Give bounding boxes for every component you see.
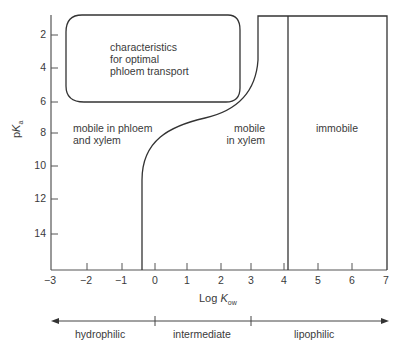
x-axis-ticks [87,263,352,270]
y-tick-label: 2 [22,28,46,40]
y-tick-label: 12 [22,192,46,204]
y-axis-title-italic: K [10,125,22,132]
x-tick-label: 5 [308,274,328,286]
xylem-label: mobile in xylem [225,122,265,146]
x-axis-title-main: Log [199,292,220,304]
arrow-right-icon [381,318,389,324]
y-axis-title-main: p [10,132,22,138]
xylem-line-1: mobile [225,122,265,134]
phloem-xylem-line-1: mobile in phloem [73,122,152,134]
phloem-xylem-line-2: and xylem [73,134,152,146]
x-tick-label: 2 [211,274,231,286]
xylem-line-2: in xylem [225,134,265,146]
y-tick-label: 6 [22,95,46,107]
x-tick-label: 0 [145,274,165,286]
x-tick-label: 4 [274,274,294,286]
optimal-line-1: characteristics [110,41,189,53]
immobile-label: immobile [316,122,358,134]
scale-label-hydrophilic: hydrophilic [75,328,125,340]
x-tick-label: 1 [177,274,197,286]
y-tick-label: 14 [22,227,46,239]
x-axis-title-sub: ow [228,299,237,306]
y-axis-ticks [51,35,58,234]
scale-label-intermediate: intermediate [173,328,231,340]
x-tick-label: −2 [76,274,96,286]
x-tick-label: 6 [342,274,362,286]
y-tick-label: 4 [22,61,46,73]
scale-label-lipophilic: lipophilic [294,328,334,340]
y-axis-title: pKa [10,121,27,138]
optimal-line-3: phloem transport [110,65,189,77]
optimal-phloem-label: characteristics for optimal phloem trans… [110,41,189,77]
x-axis-title-italic: K [220,292,227,304]
x-axis-title: Log Kow [199,292,237,309]
optimal-line-2: for optimal [110,53,189,65]
x-tick-label: −3 [40,274,60,286]
x-tick-label: −1 [111,274,131,286]
arrow-left-icon [51,318,59,324]
y-tick-label: 10 [22,159,46,171]
x-tick-label: 3 [241,274,261,286]
y-axis-title-sub: a [17,121,24,125]
phloem-xylem-label: mobile in phloem and xylem [73,122,152,146]
x-tick-label: 7 [376,274,396,286]
